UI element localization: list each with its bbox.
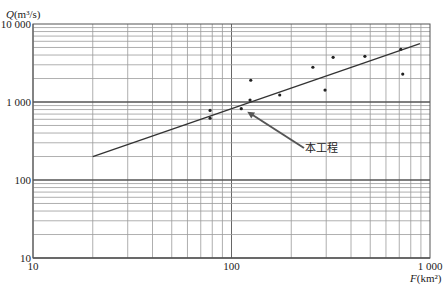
- data-point: [249, 79, 252, 82]
- data-point: [208, 109, 211, 112]
- grid: [33, 24, 430, 258]
- log-log-chart: 101001 00010 000101001 000 Q(m³/s) F(km²…: [0, 0, 447, 288]
- data-point: [240, 107, 243, 110]
- x-tick-label: 1 000: [418, 260, 443, 272]
- annotation-label: 本工程: [305, 141, 338, 155]
- data-point: [401, 72, 404, 75]
- tick-labels: 101001 00010 000101001 000: [1, 18, 443, 272]
- data-point: [323, 89, 326, 92]
- series: [93, 44, 420, 157]
- y-axis-label: Q(m³/s): [6, 8, 41, 21]
- data-point: [248, 98, 251, 101]
- fit-line: [93, 44, 420, 157]
- x-tick-label: 10: [28, 260, 40, 272]
- data-point: [278, 93, 281, 96]
- y-tick-label: 100: [15, 174, 32, 186]
- y-tick-label: 1 000: [6, 96, 31, 108]
- x-tick-label: 100: [223, 260, 240, 272]
- data-point: [332, 56, 335, 59]
- data-point: [363, 55, 366, 58]
- x-axis-label: F(km²): [409, 272, 442, 285]
- data-point: [311, 66, 314, 69]
